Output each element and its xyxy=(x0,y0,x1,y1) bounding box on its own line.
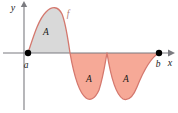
endpoint-label-a: a xyxy=(24,60,29,70)
endpoint-label-b: b xyxy=(156,59,161,69)
y-axis-label: y xyxy=(10,2,16,13)
area-label-region-1: A xyxy=(42,27,49,37)
curve-label-f: f xyxy=(67,9,71,19)
x-axis-label: x xyxy=(167,57,173,68)
y-axis-arrowhead xyxy=(21,1,27,7)
figure-container: y x a b f A A A xyxy=(0,0,178,113)
shaded-region-above-axis xyxy=(28,8,70,53)
area-label-region-2: A xyxy=(85,74,92,84)
area-under-curve-figure: y x a b f A A A xyxy=(0,0,178,113)
area-label-region-3: A xyxy=(122,74,129,84)
endpoint-dot-b xyxy=(156,50,162,56)
endpoint-dot-a xyxy=(25,50,31,56)
x-axis-arrowhead xyxy=(168,50,175,57)
